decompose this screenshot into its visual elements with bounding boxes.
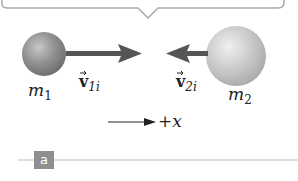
axis-label: +x <box>158 111 182 131</box>
panel-label-badge: a <box>34 151 54 169</box>
mass-symbol: m <box>28 80 44 100</box>
mass-label-m1: m1 <box>28 80 52 103</box>
arrow-v2i-shaft <box>184 51 208 56</box>
mass-symbol: m <box>228 84 244 104</box>
velocity-symbol: v <box>79 72 88 91</box>
sphere-m1 <box>22 32 66 76</box>
velocity-subscript: 2i <box>185 80 196 94</box>
axis-arrow-head <box>144 118 156 126</box>
mass-label-m2: m2 <box>228 84 252 107</box>
velocity-subscript: 1i <box>88 80 99 94</box>
callout-box-edge <box>2 0 284 18</box>
velocity-label-v1i: v1i <box>79 72 100 94</box>
arrow-v1i-shaft <box>66 51 124 56</box>
velocity-symbol: v <box>176 72 185 91</box>
sphere-m2 <box>206 26 266 86</box>
velocity-label-v2i: v2i <box>176 72 197 94</box>
mass-subscript: 1 <box>44 89 52 103</box>
mass-subscript: 2 <box>244 93 252 107</box>
